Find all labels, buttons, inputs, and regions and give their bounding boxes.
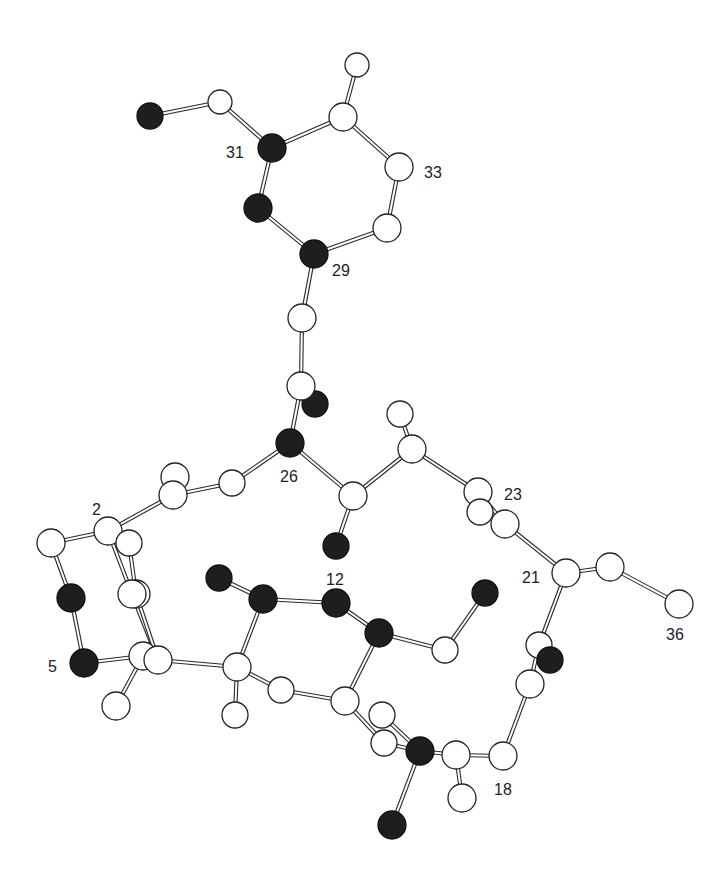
carbon-atom: [442, 741, 470, 769]
heteroatom: [323, 533, 349, 559]
carbon-atom: [385, 153, 413, 181]
carbon-atom: [116, 530, 142, 556]
bonds-layer: [51, 65, 679, 825]
carbon-atom: [268, 677, 294, 703]
carbon-atom: [339, 482, 367, 510]
heteroatom: [249, 585, 277, 613]
carbon-atom: [331, 687, 359, 715]
atom-label-23: 23: [504, 486, 522, 503]
heteroatom: [276, 429, 304, 457]
carbon-atom: [371, 730, 397, 756]
carbon-atom: [467, 499, 493, 525]
carbon-atom: [369, 702, 395, 728]
heteroatom: [378, 811, 406, 839]
heteroatom: [244, 194, 272, 222]
molecule-figure: 31 33 29 26 23 2 12 21 36 5 18: [0, 0, 720, 872]
carbon-atom: [489, 742, 517, 770]
carbon-atom: [432, 637, 458, 663]
carbon-atom: [345, 53, 369, 77]
atom-label-36: 36: [666, 626, 684, 643]
carbon-atom: [329, 103, 357, 131]
heteroatom: [537, 647, 563, 673]
carbon-atom: [596, 553, 624, 581]
atom-label-26: 26: [280, 468, 298, 485]
carbon-atom: [287, 372, 315, 400]
atom-label-12: 12: [326, 571, 344, 588]
heteroatom: [137, 103, 163, 129]
carbon-atom: [159, 481, 187, 509]
heteroatom: [472, 580, 498, 606]
atom-label-21: 21: [522, 569, 540, 586]
carbon-atom: [373, 214, 401, 242]
carbon-atom: [208, 90, 232, 114]
atom-label-2: 2: [92, 501, 101, 518]
heteroatom: [206, 565, 232, 591]
heteroatom: [258, 134, 286, 162]
heteroatom: [70, 649, 98, 677]
carbon-atom: [37, 529, 65, 557]
carbon-atom: [491, 510, 519, 538]
carbon-atom: [222, 702, 248, 728]
carbon-atom: [665, 590, 693, 618]
atom-label-31: 31: [226, 144, 244, 161]
heteroatom: [322, 589, 350, 617]
carbon-atom: [398, 435, 426, 463]
carbon-atom: [102, 692, 130, 720]
carbon-atom: [118, 580, 146, 608]
atom-label-33: 33: [424, 164, 442, 181]
molecular-structure-diagram: 31 33 29 26 23 2 12 21 36 5 18: [0, 0, 720, 872]
carbon-atom: [387, 401, 413, 427]
carbon-atom: [144, 646, 172, 674]
heteroatom: [406, 737, 434, 765]
carbon-atom: [448, 784, 476, 812]
heteroatom: [365, 619, 393, 647]
heteroatom: [300, 240, 328, 268]
carbon-atom: [288, 304, 316, 332]
atom-label-5: 5: [48, 658, 57, 675]
carbon-atom: [516, 670, 544, 698]
atom-label-18: 18: [494, 781, 512, 798]
atom-labels-layer: 31 33 29 26 23 2 12 21 36 5 18: [48, 144, 684, 798]
carbon-atom: [552, 559, 580, 587]
heteroatom: [57, 584, 85, 612]
atom-label-29: 29: [332, 262, 350, 279]
carbon-atom: [223, 653, 251, 681]
carbon-atom: [219, 470, 245, 496]
